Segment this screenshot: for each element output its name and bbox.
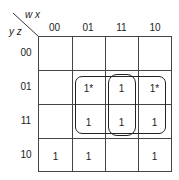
row-header-10: 10 bbox=[18, 149, 34, 160]
col-header-01: 01 bbox=[71, 22, 105, 33]
cell-r0-c2 bbox=[105, 37, 138, 71]
row-variables-label: y z bbox=[9, 26, 22, 37]
col-header-00: 00 bbox=[38, 22, 71, 33]
col-header-11: 11 bbox=[105, 22, 138, 33]
cell-r3-c3: 1 bbox=[138, 139, 171, 173]
row-header-00: 00 bbox=[18, 47, 34, 58]
cell-r1-c0 bbox=[39, 71, 72, 105]
cell-r0-c3 bbox=[138, 37, 171, 71]
kmap-grid: 1* 1 1* 1 1 1 1 1 1 bbox=[38, 36, 172, 172]
group-loop-vertical bbox=[108, 74, 136, 136]
col-header-10: 10 bbox=[138, 22, 172, 33]
column-variables-label: w x bbox=[25, 9, 40, 20]
cell-r3-c1: 1 bbox=[72, 139, 105, 173]
cell-r0-c1 bbox=[72, 37, 105, 71]
cell-r3-c2 bbox=[105, 139, 138, 173]
cell-r0-c0 bbox=[39, 37, 72, 71]
row-header-11: 11 bbox=[18, 115, 34, 126]
cell-r3-c0: 1 bbox=[39, 139, 72, 173]
cell-r2-c0 bbox=[39, 105, 72, 139]
row-header-01: 01 bbox=[18, 81, 34, 92]
